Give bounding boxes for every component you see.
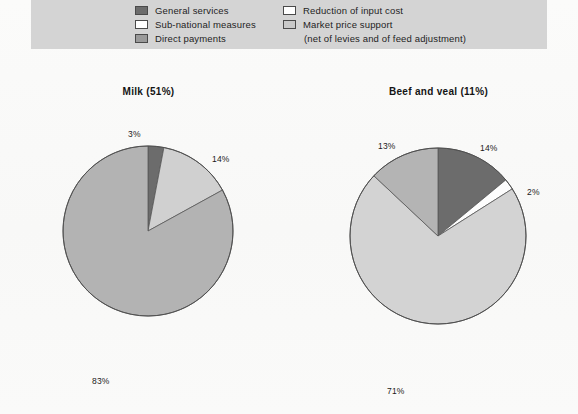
slice-label-beef-0: 14% xyxy=(480,143,498,153)
legend-item-market-price-support: Market price support xyxy=(283,18,466,32)
legend-label-general-services: General services xyxy=(155,4,229,17)
document-page: General services Sub-national measures D… xyxy=(0,0,578,414)
legend-item-direct-payments: Direct payments xyxy=(135,32,256,46)
pie-chart-milk: Milk (51%) 3% 14% 83% xyxy=(16,86,281,400)
legend-item-sub-national-measures: Sub-national measures xyxy=(135,18,256,32)
slice-label-milk-0: 3% xyxy=(128,129,141,139)
slice-label-beef-1: 2% xyxy=(527,187,540,197)
legend-label-sub-national-measures: Sub-national measures xyxy=(155,18,256,31)
legend-item-reduction-of-input-cost: Reduction of input cost xyxy=(283,4,466,18)
pie-area-beef: 14% 2% 71% 13% xyxy=(306,100,571,400)
legend-item-general-services: General services xyxy=(135,4,256,18)
pie-chart-beef: Beef and veal (11%) 14% 2% 71% 13% xyxy=(306,86,571,400)
legend-sublabel-market-price-support: (net of levies and of feed adjustment) xyxy=(304,32,466,45)
chart-title-beef: Beef and veal (11%) xyxy=(306,86,571,100)
chart-legend: General services Sub-national measures D… xyxy=(31,0,547,49)
pie-svg-beef xyxy=(306,100,571,400)
legend-label-market-price-support: Market price support xyxy=(303,18,393,31)
legend-column-left: General services Sub-national measures D… xyxy=(135,4,256,46)
legend-swatch-white-icon xyxy=(135,20,148,29)
slice-label-milk-1: 14% xyxy=(212,154,230,164)
pie-svg-milk xyxy=(16,100,281,400)
slice-label-milk-2: 83% xyxy=(92,376,110,386)
legend-swatch-white-icon xyxy=(283,6,296,15)
legend-label-direct-payments: Direct payments xyxy=(155,32,226,45)
legend-swatch-medium-icon xyxy=(135,34,148,43)
chart-title-milk: Milk (51%) xyxy=(16,86,281,100)
legend-swatch-light-icon xyxy=(283,20,296,29)
slice-label-beef-3: 13% xyxy=(378,141,396,151)
legend-column-right: Reduction of input cost Market price sup… xyxy=(283,4,466,45)
legend-swatch-dark-icon xyxy=(135,6,148,15)
pie-area-milk: 3% 14% 83% xyxy=(16,100,281,400)
slice-label-beef-2: 71% xyxy=(387,386,405,396)
legend-label-reduction-of-input-cost: Reduction of input cost xyxy=(303,4,403,17)
